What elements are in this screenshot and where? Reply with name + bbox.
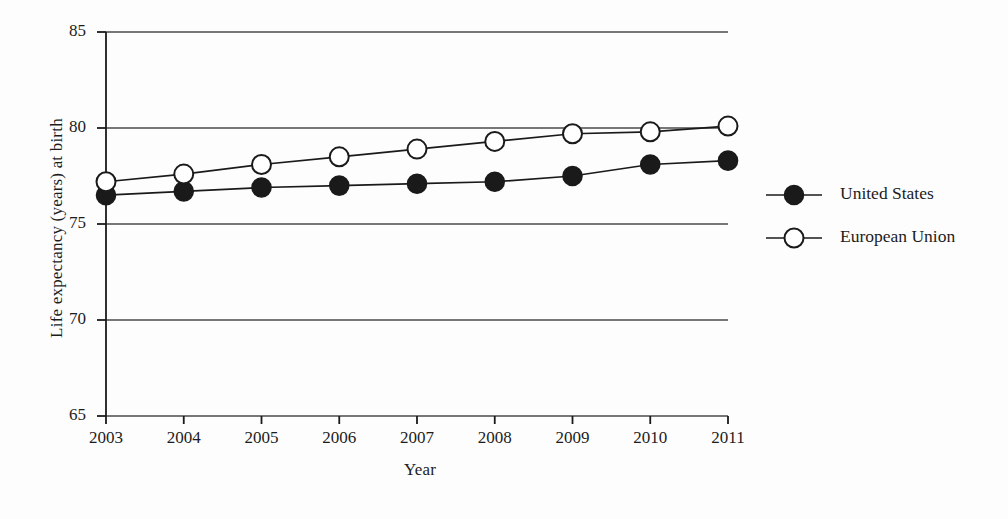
x-tick-label: 2004: [149, 428, 219, 448]
open-marker: [174, 165, 193, 184]
filled-marker: [719, 151, 738, 170]
open-marker: [641, 122, 660, 141]
gridlines-group: [106, 32, 728, 416]
open-marker: [330, 147, 349, 166]
x-tick-label: 2009: [538, 428, 608, 448]
y-tick-label: 70: [46, 309, 86, 329]
filled-marker: [563, 167, 582, 186]
filled-marker: [252, 178, 271, 197]
open-marker: [485, 132, 504, 151]
filled-marker: [408, 174, 427, 193]
filled-marker: [174, 182, 193, 201]
series-markers-group: [97, 117, 738, 205]
filled-marker: [330, 176, 349, 195]
x-tick-label: 2005: [227, 428, 297, 448]
x-axis-title: Year: [330, 460, 510, 480]
x-tick-label: 2008: [460, 428, 530, 448]
chart-figure: Life expectancy (years) at birth Year 85…: [0, 0, 1008, 519]
open-marker: [563, 124, 582, 143]
x-tick-label: 2010: [615, 428, 685, 448]
y-tick-label: 85: [46, 21, 86, 41]
x-tick-label: 2006: [304, 428, 374, 448]
x-tick-label: 2011: [693, 428, 763, 448]
y-tick-label: 75: [46, 213, 86, 233]
open-marker: [408, 140, 427, 159]
filled-marker: [641, 155, 660, 174]
open-marker: [252, 155, 271, 174]
open-marker: [719, 117, 738, 136]
legend-open-marker-1: [785, 229, 804, 248]
legend-markers-group: [766, 186, 822, 248]
legend-filled-marker-0: [785, 186, 804, 205]
open-marker: [97, 172, 116, 191]
y-tick-label: 80: [46, 117, 86, 137]
filled-marker: [485, 172, 504, 191]
x-tick-label: 2003: [71, 428, 141, 448]
tick-marks-group: [97, 32, 728, 424]
y-tick-label: 65: [46, 405, 86, 425]
x-tick-label: 2007: [382, 428, 452, 448]
legend-label-united-states: United States: [840, 183, 934, 204]
legend-label-european-union: European Union: [840, 226, 955, 247]
